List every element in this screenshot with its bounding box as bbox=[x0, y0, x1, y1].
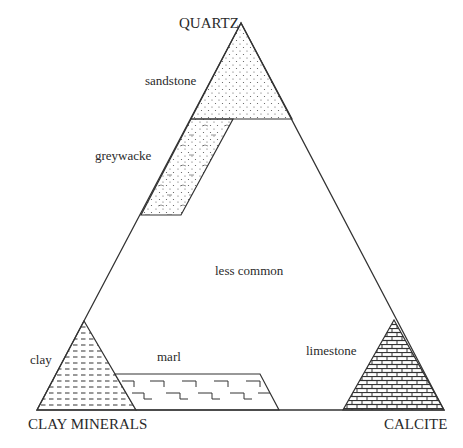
region-label-less-common: less common bbox=[215, 264, 283, 277]
limestone-region bbox=[343, 320, 444, 410]
marl-region bbox=[115, 374, 279, 410]
vertex-label-clay-minerals: CLAY MINERALS bbox=[28, 417, 147, 432]
region-label-greywacke: greywacke bbox=[95, 149, 151, 162]
region-label-marl: marl bbox=[157, 350, 181, 363]
sandstone-region bbox=[191, 23, 292, 119]
region-label-limestone: limestone bbox=[306, 344, 357, 357]
ternary-diagram bbox=[0, 0, 463, 448]
vertex-label-quartz: QUARTZ bbox=[179, 16, 239, 31]
greywacke-region bbox=[141, 119, 233, 215]
region-label-sandstone: sandstone bbox=[145, 74, 196, 87]
region-label-clay: clay bbox=[30, 353, 52, 366]
vertex-label-calcite: CALCITE bbox=[384, 417, 447, 432]
